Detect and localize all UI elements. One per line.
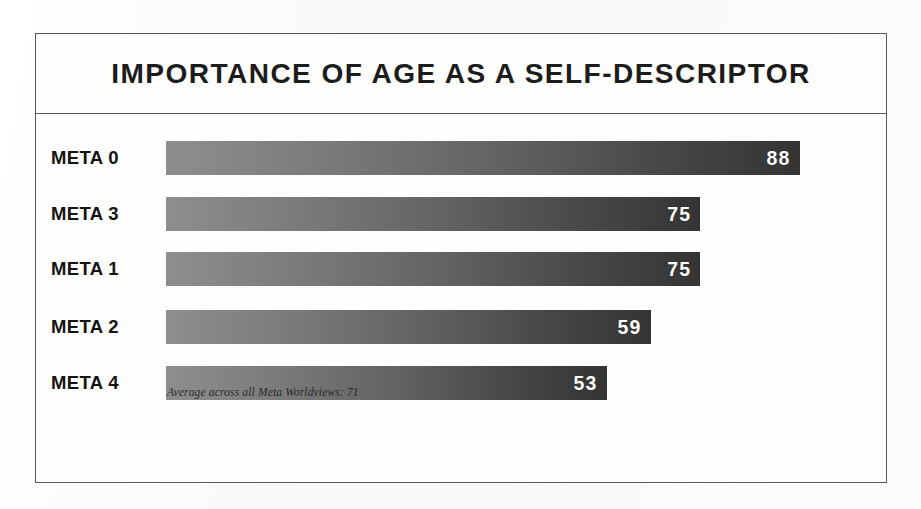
chart-plot-area: META 0 88 META 3 75 META 1 75 [36, 114, 886, 482]
chart-title-band: IMPORTANCE OF AGE AS A SELF-DESCRIPTOR [36, 34, 886, 114]
table-row: META 4 53 [36, 366, 886, 400]
bar-fill[interactable]: 75 [166, 252, 700, 286]
bar-category-label: META 1 [51, 258, 163, 280]
chart-figure-frame: IMPORTANCE OF AGE AS A SELF-DESCRIPTOR M… [35, 33, 887, 483]
bar-value-label: 53 [574, 372, 607, 395]
bar-category-label: META 3 [51, 203, 163, 225]
table-row: META 1 75 [36, 252, 886, 286]
chart-annotation: Average across all Meta Worldviews: 71 [167, 386, 359, 398]
table-row: META 0 88 [36, 141, 886, 175]
bar-category-label: META 2 [51, 316, 163, 338]
bar-fill[interactable]: 59 [166, 310, 651, 344]
bar-value-label: 75 [667, 258, 700, 281]
bar-fill[interactable]: 75 [166, 197, 700, 231]
bar-track: 88 [166, 141, 886, 175]
bar-track: 75 [166, 252, 886, 286]
bar-category-label: META 4 [51, 372, 163, 394]
bar-value-label: 88 [767, 147, 800, 170]
page-title: IMPORTANCE OF AGE AS A SELF-DESCRIPTOR [111, 57, 810, 90]
bar-fill[interactable]: 88 [166, 141, 800, 175]
bar-category-label: META 0 [51, 147, 163, 169]
table-row: META 2 59 [36, 310, 886, 344]
bar-value-label: 75 [667, 203, 700, 226]
bar-track: 75 [166, 197, 886, 231]
table-row: META 3 75 [36, 197, 886, 231]
bar-value-label: 59 [617, 316, 650, 339]
bar-track: 59 [166, 310, 886, 344]
